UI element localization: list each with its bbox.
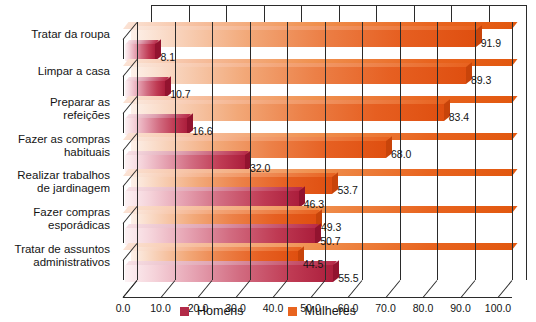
legend-swatch-icon <box>288 307 297 316</box>
category-axis-segment <box>123 186 124 206</box>
value-label-homens: 55.5 <box>338 272 358 284</box>
category-band <box>123 206 512 243</box>
category-label: Fazer as compras habituais <box>18 133 110 159</box>
bar-face <box>131 30 476 47</box>
category-axis-labels: Tratar da roupaLimpar a casaPreparar as … <box>0 0 118 322</box>
axis-tick-depth <box>160 280 175 298</box>
category-axis-segment <box>123 260 124 280</box>
category-band <box>123 22 512 59</box>
value-label-homens: 32.0 <box>250 162 270 174</box>
category-label: Tratar de assuntos administrativos <box>15 243 110 269</box>
value-label-mulheres: 44.5 <box>303 258 323 270</box>
category-label: Realizar trabalhos de jardinagem <box>17 169 110 195</box>
value-label-mulheres: 49.3 <box>321 221 341 233</box>
category-axis-segment <box>123 76 124 96</box>
category-axis-segment <box>123 223 124 243</box>
category-axis-segment <box>123 39 124 59</box>
value-label-mulheres: 53.7 <box>337 184 357 196</box>
legend-label: Homens <box>197 304 244 318</box>
gridline-depth <box>451 5 452 22</box>
axis-tick-depth <box>235 280 250 298</box>
axis-tick-depth <box>498 280 513 298</box>
bar-mulheres[interactable] <box>131 67 466 84</box>
axis-tick-depth <box>198 280 213 298</box>
gridline-vertical <box>512 22 513 280</box>
value-label-homens: 46.3 <box>304 198 324 210</box>
gridline-depth <box>489 5 490 22</box>
gridline-depth <box>189 5 190 22</box>
category-label: Preparar as refeições <box>50 96 110 122</box>
legend-item-homens[interactable]: Homens <box>180 304 244 318</box>
value-label-mulheres: 68.0 <box>391 148 411 160</box>
gridline-depth <box>151 5 152 22</box>
value-label-homens: 16.6 <box>192 125 212 137</box>
category-axis-segment <box>123 113 124 133</box>
axis-tick-depth <box>460 280 475 298</box>
axis-tick-depth <box>310 280 325 298</box>
plot-area <box>123 22 512 280</box>
axis-left <box>137 22 138 280</box>
axis-right <box>526 5 527 280</box>
category-band <box>123 133 512 170</box>
value-label-homens: 10.7 <box>170 88 190 100</box>
gridline-depth <box>376 5 377 22</box>
bar-face <box>131 67 466 84</box>
axis-tick-depth <box>273 280 288 298</box>
category-label: Tratar da roupa <box>31 28 110 41</box>
category-depth-edge <box>123 280 138 298</box>
value-label-mulheres: 89.3 <box>471 74 491 86</box>
gridline-vertical <box>437 22 438 280</box>
value-label-mulheres: 83.4 <box>449 111 469 123</box>
bar-mulheres[interactable] <box>131 30 476 47</box>
gridline-depth <box>526 5 527 22</box>
value-label-homens: 50.7 <box>320 235 340 247</box>
gridline-vertical <box>362 22 363 280</box>
gridline-vertical <box>475 22 476 280</box>
category-label: Fazer compras esporádicas <box>33 206 110 232</box>
chart-legend: HomensMulheres <box>0 304 536 318</box>
legend-label: Mulheres <box>305 304 356 318</box>
category-label: Limpar a casa <box>38 65 110 78</box>
value-label-homens: 8.1 <box>160 51 175 63</box>
bar-chart: Tratar da roupaLimpar a casaPreparar as … <box>0 0 536 322</box>
gridline-depth <box>226 5 227 22</box>
gridline-vertical <box>250 22 251 280</box>
legend-item-mulheres[interactable]: Mulheres <box>288 304 356 318</box>
gridline-depth <box>264 5 265 22</box>
gridline-depth <box>339 5 340 22</box>
gridline-vertical <box>287 22 288 280</box>
value-label-mulheres: 91.9 <box>481 37 501 49</box>
gridline-vertical <box>212 22 213 280</box>
axis-tick-depth <box>423 280 438 298</box>
gridline-depth <box>301 5 302 22</box>
category-axis-segment <box>123 150 124 170</box>
axis-bottom <box>123 297 512 298</box>
axis-tick-depth <box>385 280 400 298</box>
gridline-depth <box>414 5 415 22</box>
legend-swatch-icon <box>180 307 189 316</box>
